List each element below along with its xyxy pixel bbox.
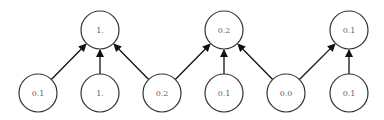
arrow-edge [238,44,273,79]
bottom-node: 0.0 [267,74,305,112]
node-label: 1. [96,26,104,35]
arrow-icon [238,44,273,79]
diagram-canvas: 1.0.20.10.11.0.20.10.00.1 [0,0,384,120]
arrow-edge [51,44,86,79]
bottom-node: 0.2 [143,74,181,112]
arrow-edge [299,44,334,79]
arrow-icon [299,44,334,79]
node-label: 0.2 [218,26,231,35]
bottom-node: 0.1 [205,74,243,112]
node-label: 0.1 [343,26,356,35]
arrow-icon [175,44,210,79]
node-label: 0.1 [343,89,356,98]
bottom-node: 1. [81,74,119,112]
top-node: 1. [81,11,119,49]
node-label: 0.1 [218,89,231,98]
node-label: 1. [96,89,104,98]
node-label: 0.1 [32,89,45,98]
top-node: 0.1 [330,11,368,49]
top-node: 0.2 [205,11,243,49]
arrow-edge [175,44,210,79]
arrow-icon [114,44,149,79]
bottom-node: 0.1 [330,74,368,112]
arrow-icon [51,44,86,79]
arrow-edge [114,44,149,79]
bottom-node: 0.1 [19,74,57,112]
node-label: 0.0 [280,89,293,98]
node-label: 0.2 [156,89,169,98]
